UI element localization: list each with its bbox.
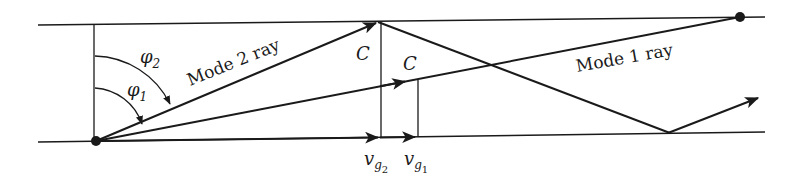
vg1-label: vg1 (404, 148, 428, 175)
mode1-endpoint-dot (735, 12, 745, 22)
vg2-label: vg2 (364, 148, 388, 175)
origin-dot (91, 136, 101, 146)
mode2-ray-label: Mode 2 ray (184, 34, 283, 89)
mode2-ray-segment-3 (668, 98, 758, 133)
c-label-mode1: C (403, 53, 417, 74)
vg1-arrow (380, 137, 415, 138)
mode1-ray-label: Mode 1 ray (574, 39, 674, 76)
mode1-ray-arrow (380, 82, 405, 87)
c-label-mode2: C (356, 43, 370, 64)
top-wall-line (38, 17, 765, 25)
phi1-label: φ1 (127, 79, 147, 104)
waveguide-ray-diagram: Mode 2 ray Mode 1 ray C C φ2 φ1 vg2 vg1 (0, 0, 797, 181)
phi2-label: φ2 (140, 46, 160, 71)
vg2-arrow (100, 138, 378, 142)
